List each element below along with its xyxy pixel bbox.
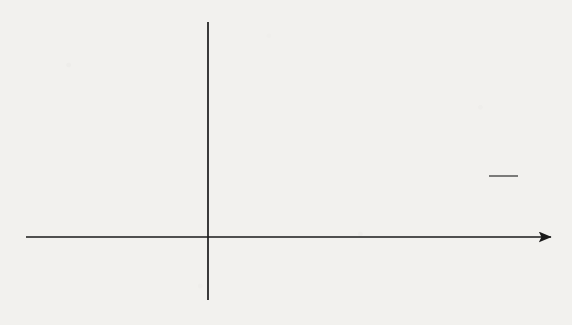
- graph-figure: [0, 0, 572, 325]
- label-12-over-x-plus-1: [0, 0, 518, 176]
- axes: [26, 22, 551, 300]
